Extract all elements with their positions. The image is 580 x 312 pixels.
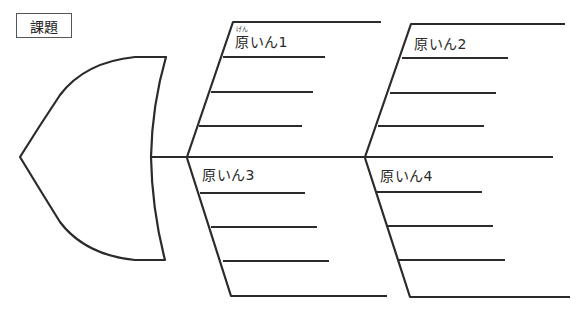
cause-2-label: 原いん2 <box>414 33 467 53</box>
problem-box: 課題 <box>16 13 72 38</box>
cause-3-label: 原いん3 <box>202 164 255 184</box>
fish-head <box>20 57 166 260</box>
fishbone-diagram <box>0 0 580 312</box>
cause-4-label: 原いん4 <box>380 165 433 185</box>
cause-1-label: 原いん1 <box>235 31 288 51</box>
problem-label: 課題 <box>30 16 58 36</box>
